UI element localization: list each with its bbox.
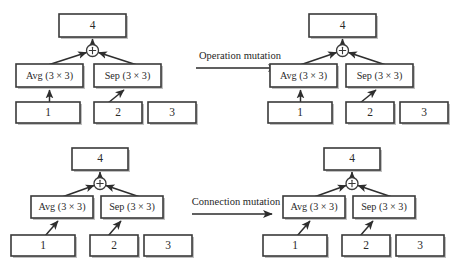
input-box-3-label: 3 (417, 239, 423, 251)
sum-node[interactable] (346, 178, 358, 190)
output-node-label: 4 (340, 19, 346, 31)
edge-sep-to-sum (349, 53, 387, 66)
op-box-sep[interactable]: Sep (3 × 3) (101, 196, 165, 220)
output-node-box[interactable]: 4 (59, 14, 128, 39)
op-box-sep[interactable]: Sep (3 × 3) (94, 64, 163, 89)
input-box-2-label: 2 (367, 106, 373, 118)
edge-input2-to-sep (360, 90, 376, 103)
sum-node[interactable] (87, 45, 99, 57)
edge-avg-to-sum (300, 53, 337, 66)
input-box-3[interactable]: 3 (400, 102, 450, 125)
output-node-box[interactable]: 4 (324, 148, 382, 172)
op-box-avg[interactable]: Avg (3 × 3) (31, 196, 95, 220)
edge-input2-to-sep (360, 221, 373, 236)
input-box-3[interactable]: 3 (148, 102, 198, 125)
input-box-2-label: 2 (363, 239, 369, 251)
input-box-3-label: 3 (421, 106, 427, 118)
input-box-1-label: 1 (292, 239, 298, 251)
operation-mutation-annotation: Operation mutation (196, 50, 282, 68)
edge-input1-to-avg (297, 221, 310, 236)
op-box-sep-label: Sep (3 × 3) (357, 70, 403, 82)
connection-mutation-annotation: Connection mutation (192, 196, 281, 214)
input-box-1[interactable]: 1 (11, 235, 77, 258)
edge-sep-to-sum (99, 53, 138, 66)
op-box-sep[interactable]: Sep (3 × 3) (346, 64, 415, 89)
input-box-3[interactable]: 3 (144, 235, 194, 258)
panel-top-right: 4 Avg (3 × 3) Sep (3 × 3) (268, 14, 450, 125)
operation-mutation-label: Operation mutation (199, 50, 282, 61)
edge-input2-to-sep (108, 221, 121, 236)
output-node-box[interactable]: 4 (309, 14, 378, 39)
op-box-avg[interactable]: Avg (3 × 3) (16, 64, 85, 89)
op-box-avg-label: Avg (3 × 3) (26, 70, 73, 82)
mutation-diagram: 4 Avg (3 × 3) Sep (0, 0, 457, 271)
op-box-avg-label: Avg (3 × 3) (290, 201, 337, 213)
op-box-avg[interactable]: Avg (3 × 3) (270, 64, 339, 89)
edge-input1-to-avg (45, 221, 58, 236)
op-box-avg-label: Avg (3 × 3) (280, 70, 327, 82)
input-box-2[interactable]: 2 (346, 102, 396, 125)
input-box-1-label: 1 (40, 239, 46, 251)
input-box-3-label: 3 (165, 239, 171, 251)
panel-bottom-left: 4 Avg (3 × 3) Sep (3 × 3) (11, 148, 194, 258)
input-box-3-label: 3 (169, 106, 175, 118)
output-node-box[interactable]: 4 (72, 148, 130, 172)
op-box-sep-label: Sep (3 × 3) (361, 201, 407, 213)
connection-mutation-label: Connection mutation (192, 196, 281, 207)
edge-avg-to-sum (48, 53, 87, 66)
input-box-1[interactable]: 1 (263, 235, 329, 258)
input-box-3[interactable]: 3 (396, 235, 446, 258)
input-box-2-label: 2 (111, 239, 117, 251)
output-node-label: 4 (90, 19, 96, 31)
op-box-sep-label: Sep (3 × 3) (105, 70, 151, 82)
op-box-avg[interactable]: Avg (3 × 3) (283, 196, 347, 220)
diagram-stage: 4 Avg (3 × 3) Sep (0, 0, 457, 271)
panel-top-left: 4 Avg (3 × 3) Sep (16, 14, 198, 125)
input-box-1[interactable]: 1 (16, 102, 82, 125)
panel-bottom-right: 4 Avg (3 × 3) Sep (3 × 3) (263, 148, 446, 258)
input-box-2[interactable]: 2 (94, 102, 144, 125)
input-box-1-label: 1 (45, 106, 51, 118)
input-box-2-label: 2 (115, 106, 121, 118)
output-node-label: 4 (97, 152, 103, 164)
op-box-sep[interactable]: Sep (3 × 3) (353, 196, 417, 220)
sum-node[interactable] (337, 45, 349, 57)
input-box-1-label: 1 (297, 106, 303, 118)
input-box-1[interactable]: 1 (268, 102, 334, 125)
input-box-2[interactable]: 2 (342, 235, 392, 258)
output-node-label: 4 (349, 152, 355, 164)
sum-node[interactable] (94, 178, 106, 190)
op-box-sep-label: Sep (3 × 3) (109, 201, 155, 213)
input-box-2[interactable]: 2 (90, 235, 140, 258)
edge-input2-to-sep (108, 90, 124, 103)
op-box-avg-label: Avg (3 × 3) (38, 201, 85, 213)
